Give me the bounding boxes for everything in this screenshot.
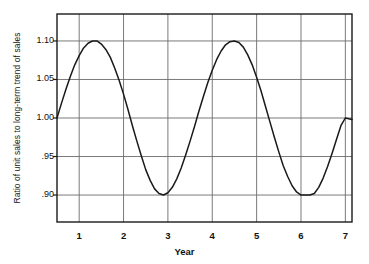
x-tick-label: 2 xyxy=(112,230,136,241)
seasonal-index-chart: Ratio of unit sales to long-term trend o… xyxy=(0,0,369,264)
x-tick-label: 3 xyxy=(156,230,180,241)
x-tick-label: 1 xyxy=(67,230,91,241)
x-axis-title: Year xyxy=(0,246,369,257)
x-tick-label: 7 xyxy=(333,230,357,241)
plot-canvas xyxy=(0,0,369,264)
x-tick-label: 6 xyxy=(289,230,313,241)
x-tick-label: 4 xyxy=(200,230,224,241)
x-tick-label: 5 xyxy=(245,230,269,241)
